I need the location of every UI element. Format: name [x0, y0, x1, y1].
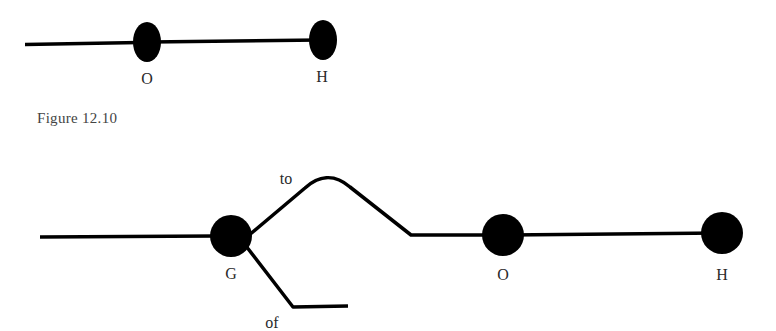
top-node-o [133, 22, 161, 62]
diagram-canvas: O H to G of O H [0, 0, 776, 331]
bottom-label-g: G [225, 265, 237, 282]
top-main-line-right [150, 40, 320, 42]
top-label-h: H [316, 68, 328, 85]
branch-label-of: of [265, 314, 279, 331]
bottom-node-h [701, 212, 743, 254]
top-diagram: O H [25, 20, 337, 87]
bottom-main-line-left [40, 236, 215, 237]
top-main-line-left [25, 43, 140, 45]
bottom-main-line-right [503, 233, 720, 235]
bottom-label-o: O [497, 266, 509, 283]
figure-caption: Figure 12.10 [37, 110, 117, 127]
lower-branch-of [246, 246, 348, 307]
branch-label-to: to [280, 170, 292, 187]
top-label-o: O [141, 70, 153, 87]
bottom-diagram: to G of O H [40, 170, 743, 331]
bottom-node-g [210, 215, 252, 257]
top-node-h [309, 20, 337, 60]
bottom-node-o [482, 214, 524, 256]
bottom-label-h: H [716, 266, 728, 283]
